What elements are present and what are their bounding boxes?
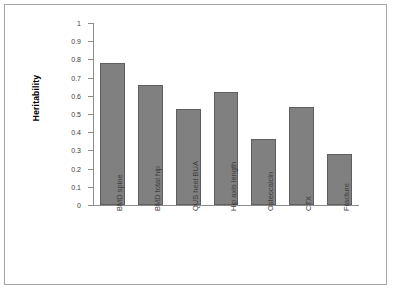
x-axis-line: [93, 205, 359, 206]
y-axis-tick-label: 0: [19, 202, 81, 209]
x-axis-tick-label: Hip axis length: [230, 162, 238, 211]
plot-area: [94, 23, 358, 205]
y-axis-tick-label: 0.5: [19, 111, 81, 118]
y-axis-tick-label: 0.6: [19, 92, 81, 99]
y-axis-tick-label: 0.4: [19, 129, 81, 136]
y-axis-tick-label: 0.7: [19, 74, 81, 81]
y-axis-tick-label: 0.9: [19, 38, 81, 45]
x-axis-tick-label: BMD spine: [116, 174, 124, 211]
x-axis-tick-label: QUS heel BUA: [192, 161, 200, 211]
x-axis-tick-label: CTX: [305, 196, 313, 211]
y-axis-tick-label: 0.3: [19, 147, 81, 154]
y-axis-tick: [88, 205, 94, 206]
x-axis-tick-label: Fracture: [343, 183, 351, 211]
y-axis-tick-label: 1: [19, 20, 81, 27]
bar: [289, 107, 314, 205]
chart-figure: Heritability 10.90.80.70.60.50.40.30.20.…: [4, 4, 387, 285]
y-axis-tick-label: 0.1: [19, 183, 81, 190]
x-axis-tick-label: BMD total hip: [154, 166, 162, 211]
y-axis-tick-label: 0.8: [19, 56, 81, 63]
y-axis-tick-label: 0.2: [19, 165, 81, 172]
x-axis-tick-label: Osteocalcin: [267, 172, 275, 211]
